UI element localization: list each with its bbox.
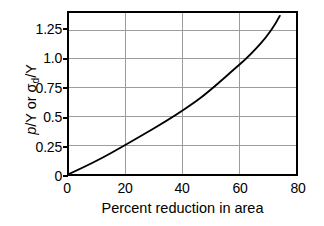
figure: 1.25 1.0 0.75 0.5 0.25 0 0 20 40 60 80 P… <box>0 0 324 226</box>
ytick-mark-075 <box>63 87 68 89</box>
xtick-label-80: 80 <box>278 181 318 195</box>
xtick-label-60: 60 <box>220 181 260 195</box>
y-axis-title-sub-d: d <box>30 78 41 84</box>
y-axis-title-slash-y-1: /Y <box>23 113 39 126</box>
xtick-label-0: 0 <box>47 181 87 195</box>
x-axis-title: Percent reduction in area <box>67 200 298 216</box>
y-axis-title-or: or <box>23 92 39 113</box>
ytick-mark-10 <box>63 58 68 60</box>
ytick-mark-05 <box>63 117 68 119</box>
y-axis-title: p/Y or σd/Y <box>23 17 44 182</box>
ytick-mark-125 <box>63 28 68 30</box>
y-axis-title-slash-y-2: /Y <box>23 64 39 78</box>
data-curve <box>69 13 296 174</box>
plot-area <box>67 11 298 176</box>
y-axis-title-p: p <box>23 127 39 135</box>
xtick-label-20: 20 <box>105 181 145 195</box>
ytick-mark-0 <box>63 175 68 177</box>
ytick-mark-025 <box>63 146 68 148</box>
series-line <box>69 16 280 174</box>
y-axis-title-sigma: σ <box>23 83 39 92</box>
xtick-label-40: 40 <box>162 181 202 195</box>
